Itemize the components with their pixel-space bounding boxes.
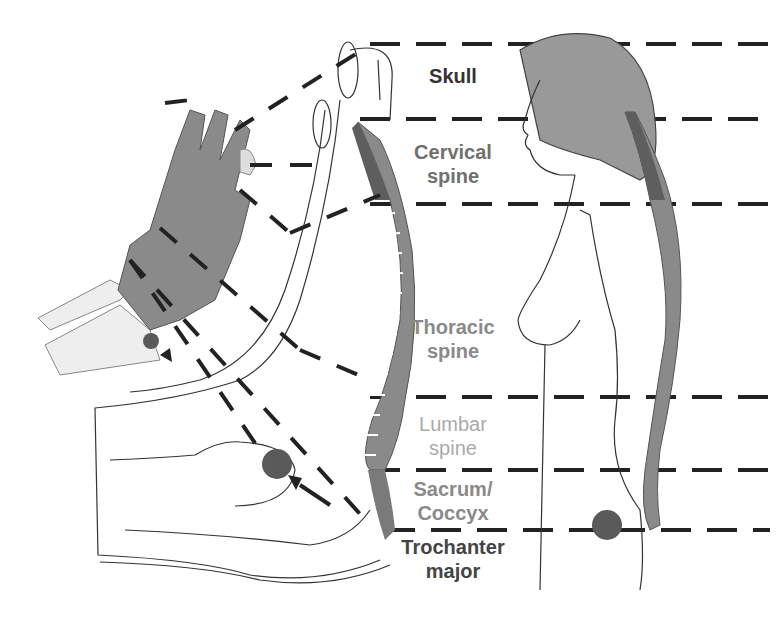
foot-skeleton [38,110,256,375]
label-trochanter-major: Trochanter major [383,535,523,583]
foot-marker [143,333,159,349]
label-thoracic-spine: Thoracic spine [383,315,523,363]
trochanter-marker [592,510,622,540]
label-cervical-spine: Cervical spine [383,140,523,188]
hip-arrow [288,475,302,490]
label-skull: Skull [383,64,523,88]
foot-arrow [160,348,172,362]
label-sacrum-coccyx: Sacrum/ Coccyx [383,477,523,525]
hip-marker [262,449,292,479]
label-lumbar-spine: Lumbar spine [383,412,523,460]
